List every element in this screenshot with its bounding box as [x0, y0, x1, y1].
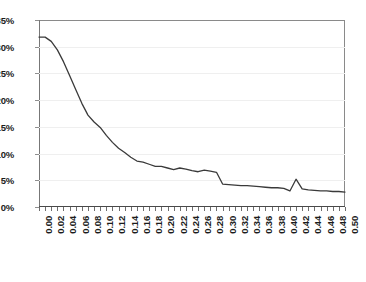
- x-axis-tick-label: 0.40: [288, 216, 299, 234]
- x-axis-tick-label: 0.32: [239, 216, 250, 234]
- y-axis-tick-label: 35%: [0, 15, 14, 26]
- x-axis-tick-mark: [223, 207, 224, 211]
- x-axis-tick-mark: [339, 207, 340, 211]
- x-axis-tick-mark: [161, 207, 162, 211]
- x-axis-tick-label: 0.36: [263, 216, 274, 234]
- x-axis-tick-mark: [259, 207, 260, 211]
- x-axis-tick-mark: [51, 207, 52, 211]
- y-axis-tick-label: 10%: [0, 148, 14, 159]
- x-axis-tick-mark: [284, 207, 285, 211]
- y-axis-tick-label: 30%: [0, 41, 14, 52]
- x-axis-tick-label: 0.30: [227, 216, 238, 234]
- x-axis-tick-mark: [308, 207, 309, 211]
- x-axis-tick-label: 0.50: [349, 216, 360, 234]
- x-axis-tick-label: 0.48: [337, 216, 348, 234]
- x-axis-tick-mark: [314, 207, 315, 211]
- x-axis-tick-mark: [229, 207, 230, 211]
- x-axis-tick-mark: [235, 207, 236, 211]
- x-axis-tick-mark: [333, 207, 334, 211]
- x-axis-tick-mark: [106, 207, 107, 211]
- x-axis-tick-mark: [125, 207, 126, 211]
- x-axis-tick-mark: [253, 207, 254, 211]
- x-axis-tick-label: 0.42: [300, 216, 311, 234]
- x-axis-tick-mark: [82, 207, 83, 211]
- x-axis-tick-label: 0.06: [80, 216, 91, 234]
- x-axis-tick-mark: [192, 207, 193, 211]
- x-axis-tick-mark: [241, 207, 242, 211]
- x-axis-tick-mark: [76, 207, 77, 211]
- x-axis-tick-label: 0.04: [67, 216, 78, 234]
- x-axis-tick-label: 0.02: [55, 216, 66, 234]
- x-axis-tick-label: 0.10: [104, 216, 115, 234]
- x-axis-tick-mark: [88, 207, 89, 211]
- x-axis-tick-mark: [45, 207, 46, 211]
- x-axis-tick-mark: [302, 207, 303, 211]
- y-axis-tick-label: 15%: [0, 121, 14, 132]
- x-axis-tick-label: 0.38: [276, 216, 287, 234]
- x-axis-tick-mark: [131, 207, 132, 211]
- x-axis-tick-label: 0.44: [312, 216, 323, 234]
- data-line: [39, 37, 345, 192]
- x-axis-tick-mark: [155, 207, 156, 211]
- x-axis-tick-mark: [345, 207, 346, 211]
- x-axis-tick-label: 0.14: [129, 216, 140, 234]
- x-axis-tick-mark: [39, 207, 40, 211]
- x-axis-tick-mark: [321, 207, 322, 211]
- x-axis-tick-mark: [186, 207, 187, 211]
- x-axis-tick-label: 0.34: [251, 216, 262, 234]
- x-axis-tick-label: 0.00: [43, 216, 54, 234]
- x-axis-tick-mark: [57, 207, 58, 211]
- x-axis-tick-mark: [174, 207, 175, 211]
- x-axis-tick-label: 0.22: [178, 216, 189, 234]
- x-axis-tick-label: 0.26: [202, 216, 213, 234]
- x-axis-ticks: 0.000.020.040.060.080.100.120.140.160.18…: [39, 207, 345, 282]
- x-axis-tick-mark: [210, 207, 211, 211]
- x-axis-tick-mark: [278, 207, 279, 211]
- x-axis-tick-mark: [216, 207, 217, 211]
- x-axis-tick-mark: [137, 207, 138, 211]
- line-series-svg: [39, 20, 345, 207]
- x-axis-tick-mark: [149, 207, 150, 211]
- x-axis-tick-mark: [112, 207, 113, 211]
- x-axis-tick-label: 0.28: [214, 216, 225, 234]
- x-axis-tick-mark: [204, 207, 205, 211]
- x-axis-tick-mark: [168, 207, 169, 211]
- y-axis-tick-label: 5%: [0, 175, 14, 186]
- x-axis-tick-mark: [119, 207, 120, 211]
- x-axis-tick-label: 0.24: [190, 216, 201, 234]
- x-axis-tick-mark: [290, 207, 291, 211]
- x-axis-tick-mark: [327, 207, 328, 211]
- x-axis-tick-mark: [180, 207, 181, 211]
- x-axis-tick-mark: [143, 207, 144, 211]
- x-axis-tick-label: 0.18: [153, 216, 164, 234]
- x-axis-tick-mark: [247, 207, 248, 211]
- y-axis-tick-label: 25%: [0, 68, 14, 79]
- x-axis-tick-mark: [63, 207, 64, 211]
- x-axis-tick-mark: [272, 207, 273, 211]
- x-axis-tick-mark: [265, 207, 266, 211]
- x-axis-tick-mark: [94, 207, 95, 211]
- x-axis-tick-label: 0.08: [92, 216, 103, 234]
- x-axis-tick-label: 0.16: [141, 216, 152, 234]
- x-axis-tick-label: 0.12: [116, 216, 127, 234]
- x-axis-tick-mark: [296, 207, 297, 211]
- x-axis-tick-label: 0.46: [325, 216, 336, 234]
- plot-area: [39, 20, 345, 207]
- x-axis-tick-mark: [198, 207, 199, 211]
- y-axis-tick-label: 20%: [0, 95, 14, 106]
- x-axis-tick-label: 0.20: [165, 216, 176, 234]
- y-axis-tick-label: 0%: [0, 202, 14, 213]
- x-axis-tick-mark: [100, 207, 101, 211]
- x-axis-tick-mark: [70, 207, 71, 211]
- chart-container: 35%30%25%20%15%10%5%0% 0.000.020.040.060…: [0, 0, 366, 282]
